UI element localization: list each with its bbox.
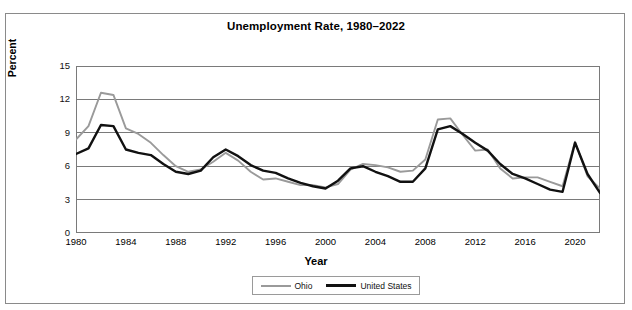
legend-line-swatch-icon xyxy=(326,284,356,287)
x-tick-label: 1996 xyxy=(256,236,296,247)
legend-item-united-states: United States xyxy=(326,281,411,291)
x-axis-title: Year xyxy=(0,255,632,267)
y-tick-label: 9 xyxy=(48,127,70,138)
x-tick-label: 2004 xyxy=(355,236,395,247)
legend-line-swatch-icon xyxy=(261,285,291,287)
x-tick-label: 2012 xyxy=(455,236,495,247)
x-tick-label: 2016 xyxy=(505,236,545,247)
y-axis-tick-labels: 03691215 xyxy=(44,66,70,233)
x-axis-tick-labels: 1980198419881992199620002004200820122016… xyxy=(76,236,600,250)
x-tick-label: 1980 xyxy=(56,236,96,247)
y-tick-label: 15 xyxy=(48,60,70,71)
chart-legend: OhioUnited States xyxy=(252,276,420,295)
x-tick-label: 1992 xyxy=(206,236,246,247)
legend-label: United States xyxy=(360,281,411,291)
y-tick-label: 12 xyxy=(48,93,70,104)
x-tick-label: 1988 xyxy=(156,236,196,247)
x-tick-label: 2000 xyxy=(306,236,346,247)
x-tick-label: 2020 xyxy=(555,236,595,247)
legend-label: Ohio xyxy=(295,281,313,291)
series-lines xyxy=(76,66,600,233)
y-tick-label: 6 xyxy=(48,160,70,171)
x-tick-label: 1984 xyxy=(106,236,146,247)
chart-title: Unemployment Rate, 1980–2022 xyxy=(0,20,632,32)
series-line-ohio xyxy=(76,93,600,189)
y-tick-label: 3 xyxy=(48,194,70,205)
chart-screenshot: Unemployment Rate, 1980–2022 Percent 036… xyxy=(0,0,632,310)
y-axis-title: Percent xyxy=(6,18,18,98)
plot-area xyxy=(76,66,600,233)
legend-item-ohio: Ohio xyxy=(261,281,313,291)
x-tick-label: 2008 xyxy=(405,236,445,247)
